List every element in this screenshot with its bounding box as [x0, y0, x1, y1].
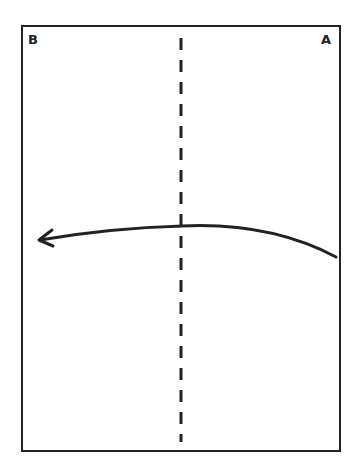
fold-arrow-curve	[40, 226, 336, 257]
diagram-overlay	[0, 0, 358, 469]
